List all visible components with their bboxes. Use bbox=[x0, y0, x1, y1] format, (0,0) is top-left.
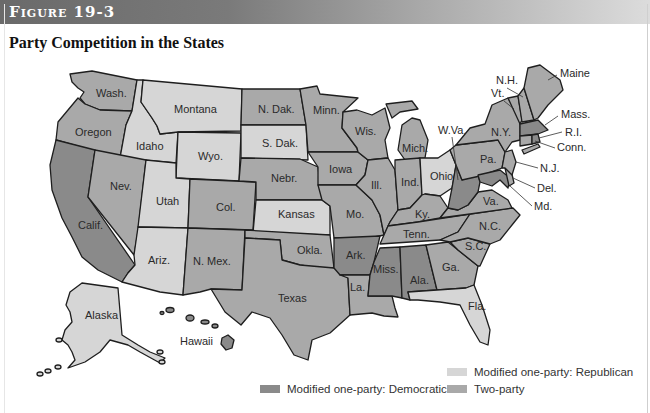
label-alaska: Alaska bbox=[85, 309, 119, 321]
aleutian-island bbox=[37, 372, 43, 376]
legend-label-democratic: Modified one-party: Democratic bbox=[287, 383, 447, 395]
label-iowa: Iowa bbox=[329, 163, 353, 175]
label-hawaii: Hawaii bbox=[180, 335, 213, 347]
label-texas: Texas bbox=[278, 292, 307, 304]
label-ill: Ill. bbox=[371, 179, 382, 191]
label-nmex: N. Mex. bbox=[193, 255, 231, 267]
legend-label-republican: Modified one-party: Republican bbox=[474, 366, 633, 378]
alaska-island bbox=[159, 360, 165, 364]
label-kansas: Kansas bbox=[278, 208, 315, 220]
label-ohio: Ohio bbox=[430, 170, 453, 182]
label-nev: Nev. bbox=[110, 180, 132, 192]
legend-swatch-two-party bbox=[447, 385, 467, 393]
label-nc: N.C. bbox=[479, 220, 501, 232]
label-pa: Pa. bbox=[480, 153, 497, 165]
label-idaho: Idaho bbox=[136, 140, 164, 152]
legend-label-two-party: Two-party bbox=[474, 383, 525, 395]
label-ark: Ark. bbox=[346, 249, 366, 261]
us-map: Wash. Oregon Calif. Idaho Nev. Montana W… bbox=[0, 0, 650, 413]
hawaii-big-island bbox=[221, 335, 234, 350]
label-mo: Mo. bbox=[346, 208, 364, 220]
label-ala: Ala. bbox=[410, 274, 429, 286]
label-okla: Okla. bbox=[297, 244, 323, 256]
label-maine: Maine bbox=[560, 67, 590, 79]
label-utah: Utah bbox=[156, 195, 179, 207]
aleutian-island bbox=[45, 369, 51, 373]
label-mass: Mass. bbox=[561, 108, 590, 120]
legend-swatch-democratic bbox=[260, 385, 280, 393]
label-conn: Conn. bbox=[557, 141, 586, 153]
label-ndak: N. Dak. bbox=[258, 103, 295, 115]
label-minn: Minn. bbox=[313, 104, 340, 116]
label-va: Va. bbox=[483, 195, 499, 207]
label-oregon: Oregon bbox=[75, 126, 112, 138]
label-ga: Ga. bbox=[442, 261, 460, 273]
label-wash: Wash. bbox=[96, 87, 127, 99]
label-fla: Fla. bbox=[468, 300, 486, 312]
state-mass bbox=[520, 120, 548, 136]
aleutian-island bbox=[56, 338, 62, 342]
label-ky: Ky. bbox=[415, 208, 430, 220]
legend-swatch-republican bbox=[447, 368, 467, 376]
label-montana: Montana bbox=[174, 103, 218, 115]
label-nh: N.H. bbox=[496, 74, 518, 86]
label-calif: Calif. bbox=[78, 219, 103, 231]
label-tenn: Tenn. bbox=[403, 228, 430, 240]
label-md: Md. bbox=[534, 200, 552, 212]
label-la: La. bbox=[350, 281, 365, 293]
state-alaska bbox=[62, 283, 165, 368]
state-nj bbox=[502, 150, 516, 175]
alaska-island bbox=[157, 350, 163, 354]
label-nebr: Nebr. bbox=[271, 172, 297, 184]
legend-item-republican: Modified one-party: Republican bbox=[447, 366, 633, 378]
label-miss: Miss. bbox=[373, 263, 399, 275]
legend-item-democratic: Modified one-party: Democratic bbox=[260, 383, 447, 395]
label-del: Del. bbox=[537, 182, 557, 194]
state-fla bbox=[408, 285, 490, 345]
label-sc: S.C. bbox=[465, 240, 486, 252]
state-conn bbox=[520, 135, 532, 146]
label-ny: N.Y. bbox=[491, 126, 511, 138]
label-wva: W.Va. bbox=[438, 124, 467, 136]
aleutian-island bbox=[55, 365, 61, 369]
hawaii-island bbox=[201, 320, 209, 324]
label-vt: Vt. bbox=[491, 87, 504, 99]
label-ariz: Ariz. bbox=[148, 254, 170, 266]
label-wis: Wis. bbox=[355, 125, 376, 137]
label-ind: Ind. bbox=[401, 176, 419, 188]
hawaii-island bbox=[212, 324, 218, 328]
label-col: Col. bbox=[216, 201, 236, 213]
legend-item-two-party: Two-party bbox=[447, 383, 525, 395]
hawaii-island bbox=[160, 312, 164, 315]
label-nj: N.J. bbox=[540, 162, 560, 174]
label-ri: R.I. bbox=[565, 126, 582, 138]
hawaii-island bbox=[166, 308, 174, 313]
label-wyo: Wyo. bbox=[198, 150, 223, 162]
hawaii-island bbox=[186, 315, 194, 321]
label-sdak: S. Dak. bbox=[262, 137, 298, 149]
label-mich: Mich. bbox=[402, 142, 428, 154]
